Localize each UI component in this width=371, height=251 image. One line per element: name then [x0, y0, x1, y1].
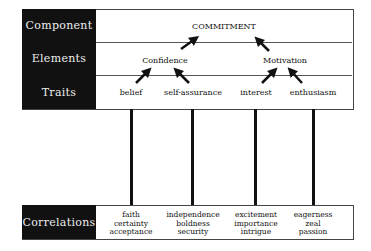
- label-correlations: Correlations: [22, 205, 96, 239]
- correlation-interest: excitement importance intrigue: [234, 211, 277, 237]
- connector-line: [312, 109, 315, 205]
- connector-line: [191, 109, 194, 205]
- correlation-enthusiasm: eagerness zeal passion: [294, 211, 333, 237]
- correlation-belief: faith certainty acceptance: [109, 211, 152, 237]
- connector-line: [130, 109, 133, 205]
- correlation-self-assurance: independence boldness security: [166, 211, 219, 237]
- connector-line: [254, 109, 257, 205]
